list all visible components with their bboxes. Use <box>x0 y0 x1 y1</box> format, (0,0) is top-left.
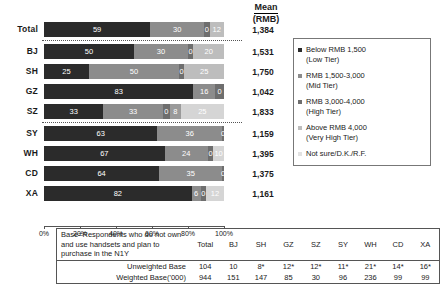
bar-segment-value: 25 <box>200 68 208 76</box>
chart-row: GZ831601,042 <box>0 82 282 102</box>
chart-bar: 33330825 <box>44 104 224 119</box>
bar-segment-value: 0 <box>208 150 212 158</box>
base-table-cell: 944 <box>191 272 220 283</box>
chart-bar: 5930012 <box>44 22 224 37</box>
chart-row: SH25500251,750 <box>0 62 282 82</box>
bar-segment: 8 <box>170 104 181 119</box>
mean-value: 1,395 <box>236 149 290 159</box>
base-table-column-header: XA <box>412 229 439 260</box>
mean-value: 1,750 <box>236 67 290 77</box>
bar-segment: 0 <box>222 166 224 181</box>
bar-segment-value: 30 <box>173 26 181 34</box>
bar-segment-value: 25 <box>62 68 70 76</box>
bar-segment: 64 <box>44 166 159 181</box>
base-table-cell: 14* <box>384 260 411 272</box>
chart-row: SZ333308251,833 <box>0 102 282 122</box>
base-table-grid: Base=Respondents who do not own and use … <box>57 229 439 283</box>
chart-row-label-cd: CD <box>2 168 38 178</box>
base-table-cell: 11* <box>329 260 356 272</box>
base-table-cell: 16* <box>412 260 439 272</box>
legend-item[interactable]: Above RMB 4,000 (Very High Tier) <box>298 123 426 142</box>
bar-segment-value: 33 <box>70 108 78 116</box>
x-axis-tick-label: 0% <box>39 230 49 237</box>
base-table-cell: 99 <box>384 272 411 283</box>
bar-segment-value: 0 <box>180 68 184 76</box>
base-table-cell: 8* <box>247 260 275 272</box>
legend-item-label: Below RMB 1,500 (Low Tier) <box>306 45 366 64</box>
chart-row-label-xa: XA <box>2 188 38 198</box>
bar-segment: 30 <box>150 22 204 37</box>
legend-swatch-icon <box>298 126 302 130</box>
chart-row: BJ50300201,531 <box>0 42 282 62</box>
bar-segment: 0 <box>222 126 224 141</box>
legend-swatch-icon <box>298 152 302 156</box>
base-table-description: Base=Respondents who do not own and use … <box>57 229 191 260</box>
base-table-header-row: Base=Respondents who do not own and use … <box>57 229 439 260</box>
base-table-column-header: SY <box>329 229 356 260</box>
base-table-row-label: Weighted Base('000) <box>57 272 191 283</box>
bar-segment-value: 64 <box>97 170 105 178</box>
bar-segment-value: 0 <box>221 130 224 138</box>
chart-row: SY633601,159 <box>0 124 282 144</box>
chart-row-label-total: Total <box>2 24 38 34</box>
bar-segment: 50 <box>44 44 134 59</box>
bar-segment-value: 82 <box>114 190 122 198</box>
base-table-row: Weighted Base('000)944151147853096236999… <box>57 272 439 283</box>
bar-segment: 82 <box>44 186 192 201</box>
bar-segment-value: 12 <box>213 26 221 34</box>
legend-item[interactable]: Not sure/D.K./R.F. <box>298 149 426 159</box>
chart-legend: Below RMB 1,500 (Low Tier)RMB 1,500-3,00… <box>293 38 431 166</box>
bar-segment: 6 <box>192 186 201 201</box>
legend-item[interactable]: RMB 1,500-3,000 (Mid Tier) <box>298 71 426 90</box>
chart-row: Total59300121,384 <box>0 20 282 40</box>
mean-value: 1,531 <box>236 47 290 57</box>
bar-segment-value: 12 <box>211 190 219 198</box>
bar-segment-value: 0 <box>205 26 209 34</box>
chart-bar: 6724010 <box>44 146 224 161</box>
mean-value: 1,833 <box>236 107 290 117</box>
bar-segment-value: 20 <box>205 48 213 56</box>
bar-segment-value: 67 <box>100 150 108 158</box>
legend-item[interactable]: Below RMB 1,500 (Low Tier) <box>298 45 426 64</box>
base-table-cell: 12* <box>275 260 302 272</box>
base-table-cell: 21* <box>357 260 385 272</box>
mean-value: 1,159 <box>236 129 290 139</box>
chart-row-label-sz: SZ <box>2 106 38 116</box>
bar-segment: 33 <box>44 104 103 119</box>
bar-segment-value: 25 <box>198 108 206 116</box>
legend-item-label: Above RMB 4,000 (Very High Tier) <box>306 123 367 142</box>
bar-segment: 0 <box>215 84 224 99</box>
legend-item[interactable]: RMB 3,000-4,000 (High Tier) <box>298 97 426 116</box>
row-separator <box>42 40 242 41</box>
base-table-column-header: SH <box>247 229 275 260</box>
bar-segment: 33 <box>103 104 162 119</box>
legend-item-label: Not sure/D.K./R.F. <box>306 149 366 159</box>
bar-segment-value: 10 <box>214 150 222 158</box>
base-table-row: Unweighted Base104108*12*12*11*21*14*16* <box>57 260 439 272</box>
chart-row-label-sh: SH <box>2 66 38 76</box>
legend-swatch-icon <box>298 100 302 104</box>
bar-segment-value: 0 <box>189 48 193 56</box>
mean-value: 1,042 <box>236 87 290 97</box>
bar-segment: 25 <box>44 64 89 79</box>
x-axis-line <box>44 226 224 227</box>
chart-row-label-wh: WH <box>2 148 38 158</box>
bar-segment-value: 83 <box>115 88 123 96</box>
bar-segment: 30 <box>134 44 188 59</box>
bar-segment: 63 <box>44 126 157 141</box>
chart-row: WH67240101,395 <box>0 144 282 164</box>
bar-segment: 25 <box>181 104 224 119</box>
bar-segment: 24 <box>165 146 208 161</box>
base-table-column-header: WH <box>357 229 385 260</box>
stacked-bar-chart: Total59300121,384BJ50300201,531SH2550025… <box>0 20 282 220</box>
base-table-cell: 12* <box>302 260 329 272</box>
mean-header-label: Mean <box>254 2 277 14</box>
bar-segment: 12 <box>206 186 224 201</box>
legend-item-label: RMB 3,000-4,000 (High Tier) <box>306 97 365 116</box>
bar-segment-value: 50 <box>130 68 138 76</box>
base-table-cell: 236 <box>357 272 385 283</box>
base-table-cell: 30 <box>302 272 329 283</box>
chart-bar: 826012 <box>44 186 224 201</box>
bar-segment: 25 <box>184 64 224 79</box>
base-table-cell: 96 <box>329 272 356 283</box>
